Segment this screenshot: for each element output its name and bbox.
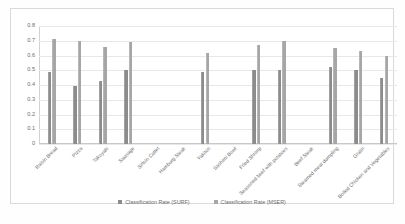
bar <box>257 45 260 144</box>
bar-group <box>252 26 278 144</box>
y-tick-label: 0 <box>32 141 35 147</box>
legend-item: Classification Rate (MSER) <box>214 199 286 205</box>
y-tick-label: 0.2 <box>27 112 35 118</box>
bar <box>201 72 204 144</box>
legend-label: Classification Rate (MSER) <box>221 199 286 205</box>
x-tick-label: Yakitori <box>196 146 212 162</box>
bar-group <box>380 26 405 144</box>
x-tick-label: Hamburg Steak <box>158 146 187 175</box>
x-tick-label: Gratin <box>352 146 366 160</box>
y-tick-label: 0.4 <box>27 82 35 88</box>
bar-group <box>354 26 380 144</box>
bar-group <box>73 26 99 144</box>
bar <box>252 70 255 144</box>
plot-area: 00.10.20.30.40.50.60.70.8 <box>39 26 397 144</box>
y-tick-label: 0.1 <box>27 126 35 132</box>
bar <box>99 81 102 144</box>
bar-group <box>175 26 201 144</box>
bar <box>52 39 55 144</box>
bar-group <box>329 26 355 144</box>
bar-group <box>303 26 329 144</box>
bar <box>333 48 336 144</box>
x-tick-label: Raisin Bread <box>34 146 59 171</box>
legend-item: Classification Rate (SURF) <box>118 199 189 205</box>
y-tick-label: 0.6 <box>27 53 35 59</box>
gridline <box>39 144 397 145</box>
bar <box>282 41 285 144</box>
bar-group <box>278 26 304 144</box>
legend-label: Classification Rate (SURF) <box>125 199 189 205</box>
x-tick-label: Sausage <box>117 146 135 164</box>
bar <box>129 42 132 144</box>
bar <box>278 70 281 144</box>
x-tick-label: Beef Steak <box>293 146 315 168</box>
bar-group <box>201 26 227 144</box>
x-tick-label: Fried Shrimp <box>239 146 264 171</box>
bar <box>78 41 81 144</box>
y-tick-label: 0.5 <box>27 67 35 73</box>
bar-group <box>99 26 125 144</box>
x-tick-label: Sirloin Cutlet <box>137 146 161 170</box>
bar <box>380 78 383 144</box>
bar <box>124 70 127 144</box>
x-tick-label: Seasoned beef with potatoes <box>238 146 288 196</box>
bar <box>103 47 106 144</box>
x-axis-category-labels: Raisin BreadPizzaTakoyakiSausageSirloin … <box>39 146 397 198</box>
chart-container: 00.10.20.30.40.50.60.70.8 Raisin BreadPi… <box>0 0 405 224</box>
bar <box>48 72 51 144</box>
bar <box>206 53 209 144</box>
x-tick-label: Sashimi Bowl <box>212 146 238 172</box>
x-tick-label: Boiled Chicken and Vegetables <box>337 146 391 200</box>
bar <box>359 51 362 144</box>
bar <box>385 56 388 145</box>
y-tick-label: 0.3 <box>27 97 35 103</box>
y-tick-label: 0.7 <box>27 38 35 44</box>
bar-group <box>150 26 176 144</box>
bar <box>73 86 76 144</box>
bar <box>354 70 357 144</box>
bar-group <box>227 26 253 144</box>
chart-legend: Classification Rate (SURF)Classification… <box>11 199 393 205</box>
x-tick-label: Takoyaki <box>92 146 110 164</box>
bar-group <box>48 26 74 144</box>
bar <box>329 67 332 144</box>
bar-group <box>124 26 150 144</box>
legend-swatch-icon <box>214 200 218 204</box>
legend-swatch-icon <box>118 200 122 204</box>
y-tick-label: 0.8 <box>27 23 35 29</box>
x-tick-label: Pizza <box>72 146 85 159</box>
chart-frame: 00.10.20.30.40.50.60.70.8 Raisin BreadPi… <box>10 8 394 204</box>
